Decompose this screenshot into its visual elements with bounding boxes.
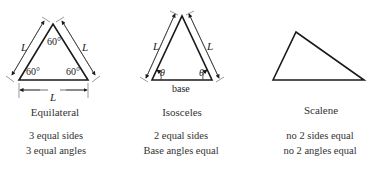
isosceles-title: Isosceles	[122, 106, 242, 118]
equilateral-side-label-right: L	[82, 41, 88, 53]
isosceles-base-label: base	[172, 83, 190, 94]
scalene-triangle	[273, 32, 364, 80]
equilateral-title: Equilateral	[0, 106, 115, 118]
isosceles-properties: 2 equal sides Base angles equal	[116, 128, 246, 158]
equilateral-apex-angle: 60°	[47, 36, 61, 47]
scalene-property-sides: no 2 sides equal	[255, 128, 370, 143]
scalene-title: Scalene	[261, 104, 370, 116]
isosceles-right-angle: θ	[199, 67, 204, 78]
isosceles-property-sides: 2 equal sides	[116, 128, 246, 143]
isosceles-property-angles: Base angles equal	[116, 143, 246, 158]
equilateral-properties: 3 equal sides 3 equal angles	[0, 128, 121, 158]
equilateral-side-label-bottom: L	[50, 91, 56, 103]
equilateral-property-sides: 3 equal sides	[0, 128, 121, 143]
isosceles-side-label-left: L	[153, 40, 159, 52]
scalene-property-angles: no 2 angles equal	[255, 143, 370, 158]
equilateral-side-label-left: L	[21, 41, 27, 53]
equilateral-right-angle: 60°	[66, 66, 80, 77]
equilateral-property-angles: 3 equal angles	[0, 143, 121, 158]
isosceles-left-angle: θ	[160, 67, 165, 78]
equilateral-left-angle: 60°	[26, 66, 40, 77]
scalene-properties: no 2 sides equal no 2 angles equal	[255, 128, 370, 158]
isosceles-side-label-right: L	[207, 40, 213, 52]
equilateral-triangle	[6, 17, 100, 98]
